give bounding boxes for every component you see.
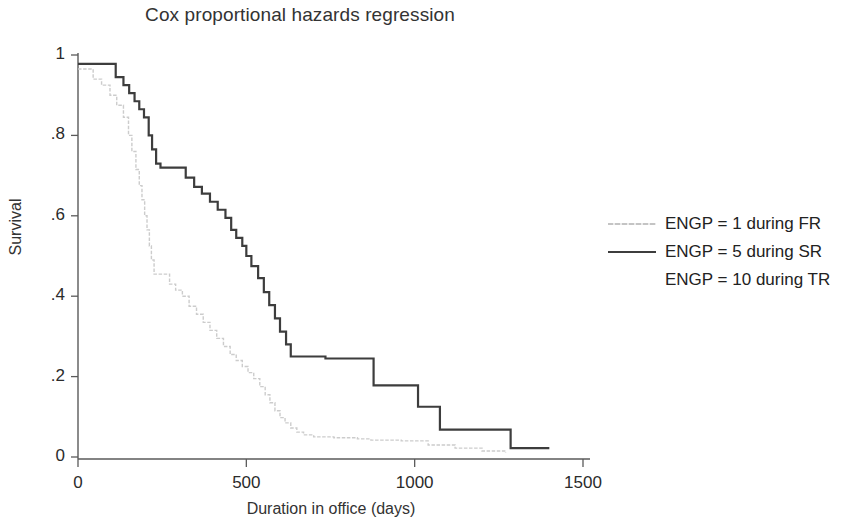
legend-label: ENGP = 1 during FR — [665, 214, 821, 234]
y-tick-label: .4 — [25, 285, 65, 305]
y-tick-label: .8 — [25, 124, 65, 144]
y-tick-label: 0 — [25, 446, 65, 466]
legend-label: ENGP = 5 during SR — [665, 242, 822, 262]
legend-row[interactable]: ENGP = 10 during TR — [608, 266, 856, 294]
axis-lines — [78, 53, 590, 459]
survival-curve-series-1 — [78, 64, 549, 448]
survival-chart-figure: Cox proportional hazards regression Surv… — [0, 0, 856, 529]
legend-line-swatch-icon — [608, 245, 656, 259]
chart-legend: ENGP = 1 during FRENGP = 5 during SRENGP… — [608, 210, 856, 294]
x-tick-label: 1500 — [553, 473, 613, 493]
legend-line-swatch-icon — [608, 273, 656, 287]
survival-curve-series-0 — [78, 69, 506, 453]
y-tick-label: .2 — [25, 366, 65, 386]
series-curves — [78, 64, 549, 453]
legend-label: ENGP = 10 during TR — [665, 270, 830, 290]
legend-line-swatch-icon — [608, 217, 656, 231]
x-tick-label: 0 — [48, 473, 108, 493]
legend-row[interactable]: ENGP = 1 during FR — [608, 210, 856, 238]
x-tick-label: 500 — [216, 473, 276, 493]
x-tick-label: 1000 — [385, 473, 445, 493]
y-tick-label: .6 — [25, 205, 65, 225]
y-tick-label: 1 — [25, 44, 65, 64]
legend-row[interactable]: ENGP = 5 during SR — [608, 238, 856, 266]
